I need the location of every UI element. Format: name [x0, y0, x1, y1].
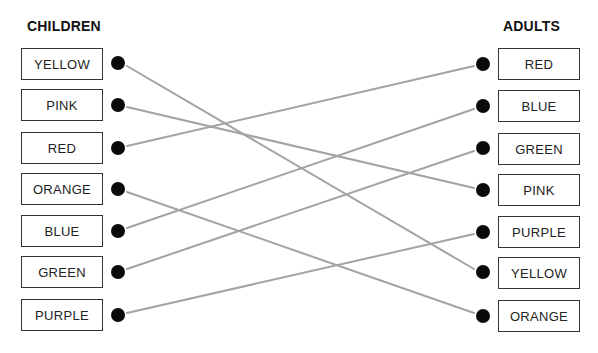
adults-item-1: RED	[498, 48, 580, 80]
children-item-1: YELLOW	[21, 48, 103, 80]
children-item-4: ORANGE	[21, 173, 103, 205]
adults-dot-1	[476, 57, 490, 71]
children-dot-3	[111, 141, 125, 155]
children-item-7: PURPLE	[21, 299, 103, 331]
children-dot-4	[111, 182, 125, 196]
adults-item-6: YELLOW	[498, 257, 580, 289]
children-item-3: RED	[21, 132, 103, 164]
children-heading: CHILDREN	[27, 18, 101, 34]
connector-purple	[127, 234, 474, 313]
adults-item-3: GREEN	[498, 133, 580, 165]
adults-heading: ADULTS	[503, 18, 560, 34]
children-item-6: GREEN	[21, 256, 103, 288]
children-dot-1	[111, 56, 125, 70]
connector-blue	[127, 109, 474, 228]
connector-pink	[127, 107, 474, 188]
adults-dot-6	[476, 265, 490, 279]
connector-yellow	[127, 66, 474, 269]
adults-item-7: ORANGE	[498, 300, 580, 332]
adults-dot-2	[476, 99, 490, 113]
adults-item-4: PINK	[498, 174, 580, 206]
adults-item-5: PURPLE	[498, 216, 580, 248]
adults-dot-3	[476, 141, 490, 155]
children-dot-6	[111, 265, 125, 279]
children-dot-2	[111, 98, 125, 112]
connector-orange	[127, 192, 474, 313]
children-item-5: BLUE	[21, 215, 103, 247]
children-dot-5	[111, 224, 125, 238]
adults-dot-5	[476, 225, 490, 239]
connector-green	[127, 151, 474, 269]
connector-red	[127, 66, 474, 146]
adults-item-2: BLUE	[498, 90, 580, 122]
children-item-2: PINK	[21, 89, 103, 121]
adults-dot-7	[476, 309, 490, 323]
adults-dot-4	[476, 183, 490, 197]
children-dot-7	[111, 308, 125, 322]
